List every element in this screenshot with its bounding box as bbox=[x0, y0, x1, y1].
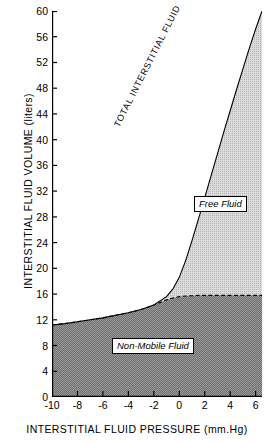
x-tick-label: -4 bbox=[115, 400, 141, 410]
x-axis-title: INTERSTITIAL FLUID PRESSURE (mm.Hg) bbox=[0, 423, 274, 435]
x-tick-label: -2 bbox=[141, 400, 167, 410]
x-tick-label: 4 bbox=[217, 400, 243, 410]
chart-figure: INTERSTITIAL FLUID VOLUME (liters) 04812… bbox=[0, 0, 274, 443]
x-tick-label: 2 bbox=[192, 400, 218, 410]
free-fluid-label: Free Fluid bbox=[194, 196, 247, 212]
x-tick-label: 0 bbox=[166, 400, 192, 410]
non-mobile-fluid-label: Non-Mobile Fluid bbox=[112, 338, 194, 354]
x-tick-label: -10 bbox=[39, 400, 65, 410]
x-tick-label: -6 bbox=[90, 400, 116, 410]
x-axis-tick-labels: -10-8-6-4-20246 bbox=[0, 0, 274, 443]
free-fluid-line1: Free Fluid bbox=[199, 198, 242, 209]
x-tick-label: 6 bbox=[243, 400, 269, 410]
x-tick-label: -8 bbox=[64, 400, 90, 410]
